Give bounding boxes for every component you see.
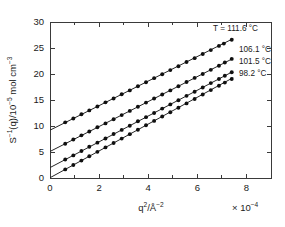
data-point bbox=[185, 60, 189, 64]
y-tick-label: 10 bbox=[33, 120, 44, 131]
data-point bbox=[136, 119, 140, 123]
y-tick-labels: 051015202530 bbox=[33, 16, 44, 183]
data-point bbox=[209, 88, 213, 92]
y-tick-label: 0 bbox=[39, 172, 44, 183]
data-series bbox=[50, 38, 234, 130]
data-point bbox=[128, 132, 132, 136]
data-point bbox=[223, 74, 227, 78]
data-point bbox=[136, 84, 140, 88]
data-point bbox=[176, 64, 180, 68]
y-axis-title: S−1(q)/10−5 mol cm−3 bbox=[6, 56, 18, 143]
data-point bbox=[71, 117, 75, 121]
x-tick-label: 4 bbox=[146, 182, 151, 193]
data-point bbox=[87, 130, 91, 134]
data-point bbox=[185, 94, 189, 98]
data-point bbox=[168, 88, 172, 92]
data-point bbox=[144, 101, 148, 105]
data-point bbox=[79, 112, 83, 116]
data-point bbox=[95, 150, 99, 154]
data-point bbox=[71, 153, 75, 157]
data-point bbox=[79, 133, 83, 137]
x-axis-exponent-note: × 10−4 bbox=[232, 201, 259, 213]
data-point bbox=[209, 48, 213, 52]
data-point bbox=[95, 141, 99, 145]
data-point bbox=[168, 102, 172, 106]
series-label: 101.5 °C bbox=[239, 57, 271, 66]
series-fit-line bbox=[50, 71, 233, 167]
data-point bbox=[193, 90, 197, 94]
data-point bbox=[160, 72, 164, 76]
data-point bbox=[112, 141, 116, 145]
data-point bbox=[217, 84, 221, 88]
data-point bbox=[136, 128, 140, 132]
data-point bbox=[209, 68, 213, 72]
y-tick-label: 5 bbox=[39, 146, 44, 157]
data-point bbox=[160, 93, 164, 97]
data-point bbox=[230, 70, 234, 74]
axis-ticks bbox=[50, 22, 271, 178]
data-point bbox=[230, 57, 234, 61]
data-point bbox=[136, 105, 140, 109]
series-label: T = 111.6 °C bbox=[213, 24, 258, 33]
data-point bbox=[120, 113, 124, 117]
data-point bbox=[160, 107, 164, 111]
data-point bbox=[71, 163, 75, 167]
data-point bbox=[128, 88, 132, 92]
data-point bbox=[120, 92, 124, 96]
series-label: 98.2 °C bbox=[239, 69, 266, 78]
data-point bbox=[152, 76, 156, 80]
data-point bbox=[209, 81, 213, 85]
series-fit-line bbox=[50, 58, 233, 151]
data-point bbox=[112, 132, 116, 136]
data-point bbox=[144, 115, 148, 119]
data-point bbox=[152, 111, 156, 115]
data-point bbox=[222, 42, 226, 46]
data-point bbox=[201, 86, 205, 90]
data-point bbox=[176, 98, 180, 102]
series-labels-group: T = 111.6 °C106.1 °C101.5 °C98.2 °C bbox=[213, 24, 271, 78]
data-point bbox=[79, 159, 83, 163]
x-tick-labels: 02468 bbox=[47, 182, 249, 193]
data-point bbox=[152, 96, 156, 100]
x-tick-label: 6 bbox=[195, 182, 200, 193]
data-point bbox=[120, 137, 124, 141]
data-point bbox=[144, 80, 148, 84]
data-series bbox=[50, 70, 234, 167]
data-series bbox=[50, 77, 234, 178]
data-series bbox=[50, 57, 234, 152]
data-point bbox=[87, 108, 91, 112]
x-axis-title: q2/Å−2 bbox=[138, 201, 164, 213]
data-point bbox=[230, 38, 234, 42]
data-point bbox=[176, 106, 180, 110]
data-point bbox=[128, 109, 132, 113]
data-point bbox=[176, 84, 180, 88]
data-point bbox=[104, 145, 108, 149]
y-tick-label: 25 bbox=[33, 42, 44, 53]
data-point bbox=[120, 128, 124, 132]
data-point bbox=[168, 110, 172, 114]
data-point bbox=[95, 105, 99, 109]
data-point bbox=[63, 120, 67, 124]
data-point bbox=[223, 61, 227, 65]
y-tick-label: 30 bbox=[33, 16, 44, 27]
series-fit-line bbox=[50, 39, 233, 131]
data-point bbox=[185, 80, 189, 84]
x-tick-label: 8 bbox=[244, 182, 249, 193]
data-point bbox=[128, 124, 132, 128]
data-point bbox=[193, 97, 197, 101]
data-series-group bbox=[50, 38, 234, 178]
data-point bbox=[223, 81, 227, 85]
data-point bbox=[112, 117, 116, 121]
data-point bbox=[79, 149, 83, 153]
data-point bbox=[63, 167, 67, 171]
series-label: 106.1 °C bbox=[239, 45, 271, 54]
data-point bbox=[144, 123, 148, 127]
data-point bbox=[201, 93, 205, 97]
data-point bbox=[217, 64, 221, 68]
data-point bbox=[87, 145, 91, 149]
data-point bbox=[201, 72, 205, 76]
data-point bbox=[71, 138, 75, 142]
data-point bbox=[104, 121, 108, 125]
data-point bbox=[63, 142, 67, 146]
data-point bbox=[168, 68, 172, 72]
